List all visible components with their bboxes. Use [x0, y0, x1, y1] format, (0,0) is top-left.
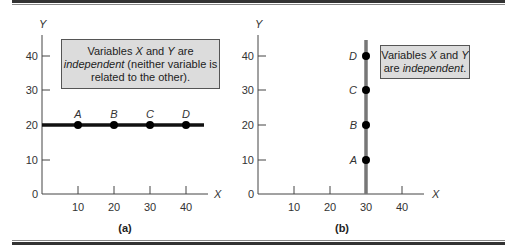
point-a-C: [146, 121, 154, 129]
annotation-box-a: Variables X and Y are independent (neith…: [61, 39, 220, 89]
point-b-B: [362, 121, 370, 129]
x-axis-label-a: X: [213, 188, 222, 200]
x-axis-label-b: X: [431, 188, 440, 200]
y-tick-a-20: 20: [26, 119, 38, 131]
point-label-a-C: C: [146, 108, 154, 120]
y-tick-a-0: 0: [32, 188, 38, 200]
point-a-A: [74, 121, 82, 129]
y-tick-b-20: 20: [242, 119, 254, 131]
y-tick-b-0: 0: [248, 188, 254, 200]
point-label-b-A: A: [349, 154, 357, 166]
y-axis-label-a: Y: [39, 18, 47, 30]
point-label-a-D: D: [182, 108, 190, 120]
caption-a: (a): [118, 222, 132, 234]
charts-canvas: Y X 40 30 20 10 0 10 20 30 40 A B C D (a…: [0, 0, 505, 246]
y-tick-b-30: 30: [242, 84, 254, 96]
point-b-C: [362, 86, 370, 94]
point-label-a-B: B: [110, 108, 117, 120]
point-b-A: [362, 156, 370, 164]
point-label-a-A: A: [73, 108, 81, 120]
x-tick-b-30: 30: [360, 201, 372, 213]
x-tick-a-10: 10: [72, 201, 84, 213]
y-tick-b-40: 40: [242, 50, 254, 62]
y-tick-a-10: 10: [26, 154, 38, 166]
point-label-b-B: B: [350, 119, 357, 131]
annotation-box-b: Variables X and Y are independent.: [380, 45, 470, 79]
y-axis-label-b: Y: [255, 18, 263, 30]
x-tick-a-30: 30: [144, 201, 156, 213]
point-a-B: [110, 121, 118, 129]
y-tick-a-40: 40: [26, 50, 38, 62]
y-tick-a-30: 30: [26, 84, 38, 96]
point-a-D: [182, 121, 190, 129]
x-tick-b-20: 20: [324, 201, 336, 213]
x-tick-a-20: 20: [108, 201, 120, 213]
point-b-D: [362, 52, 370, 60]
x-tick-b-10: 10: [288, 201, 300, 213]
y-tick-b-10: 10: [242, 154, 254, 166]
point-label-b-D: D: [349, 50, 357, 62]
point-label-b-C: C: [349, 84, 357, 96]
x-tick-a-40: 40: [180, 201, 192, 213]
x-tick-b-40: 40: [396, 201, 408, 213]
caption-b: (b): [335, 222, 349, 234]
